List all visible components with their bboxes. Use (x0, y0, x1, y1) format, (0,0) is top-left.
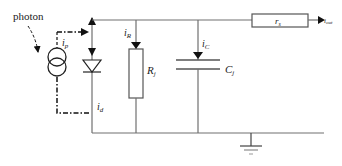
iC-label: iC (202, 38, 210, 51)
cj-label: Cj (225, 63, 234, 77)
photon-label: photon (13, 10, 44, 22)
iR-arrow-icon (131, 42, 141, 49)
rj-label: Rj (146, 64, 156, 78)
rj-resistor-icon (129, 49, 143, 98)
photon-arrow-icon (28, 26, 38, 52)
iC-arrow-icon (193, 52, 203, 59)
iR-label: iR (124, 27, 132, 40)
cj-capacitor-icon (176, 60, 220, 69)
diode-icon (83, 60, 101, 72)
arrow-up-icon (88, 17, 96, 25)
ground-icon (240, 133, 262, 154)
id-label: id (97, 101, 104, 114)
circuit-diagram: photon ip id rs iout iR Rj iC Cj (0, 0, 342, 166)
arrow-down-icon (88, 48, 96, 56)
ip-label: ip (62, 37, 69, 50)
iout-label: iout (324, 17, 333, 25)
id-dashed-path (57, 77, 90, 113)
